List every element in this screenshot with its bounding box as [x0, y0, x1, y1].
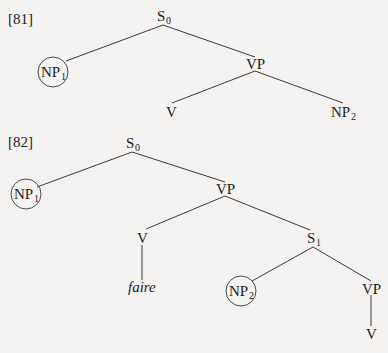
edge-s0-np1 — [37, 152, 132, 187]
node-vp: VP — [246, 56, 265, 72]
edge-vp-v — [146, 196, 225, 229]
edge-s0-np1 — [66, 25, 163, 61]
tree-81: [81] S 0 NP 1 VP V NP 2 — [8, 8, 356, 122]
svg-text:VP: VP — [246, 56, 265, 72]
syntax-tree-diagram: [81] S 0 NP 1 VP V NP 2 [ — [0, 0, 388, 353]
svg-text:V: V — [137, 230, 148, 246]
svg-text:VP: VP — [216, 181, 235, 197]
node-v: V — [166, 104, 177, 120]
svg-text:faire: faire — [128, 279, 156, 295]
edge-s1-np2 — [252, 247, 313, 281]
svg-text:NP: NP — [229, 283, 248, 299]
example-label-81: [81] — [8, 11, 33, 27]
edge-vp-s1 — [225, 196, 310, 230]
example-label-82: [82] — [8, 134, 33, 150]
svg-text:0: 0 — [135, 142, 140, 153]
svg-text:2: 2 — [351, 111, 356, 122]
node-np2: NP 2 — [331, 104, 356, 122]
svg-text:VP: VP — [362, 281, 381, 297]
node-s0: S 0 — [157, 8, 171, 26]
svg-text:S: S — [157, 8, 165, 24]
node-s0: S 0 — [126, 135, 140, 153]
svg-text:2: 2 — [249, 290, 254, 301]
svg-text:0: 0 — [166, 15, 171, 26]
node-np1-circled: NP 1 — [11, 179, 41, 209]
edge-s0-vp — [163, 25, 255, 57]
svg-text:S: S — [307, 230, 315, 246]
node-vp: VP — [216, 181, 235, 197]
edge-vp-np2 — [255, 71, 343, 103]
svg-text:1: 1 — [61, 71, 66, 82]
svg-text:NP: NP — [41, 64, 60, 80]
node-v: V — [137, 230, 148, 246]
node-vp2: VP — [362, 281, 381, 297]
edge-vp-v — [172, 71, 255, 103]
svg-text:NP: NP — [331, 104, 350, 120]
tree-82: [82] S 0 NP 1 VP V faire — [8, 134, 381, 342]
node-faire: faire — [128, 279, 156, 295]
edge-s1-vp — [313, 247, 371, 281]
svg-text:V: V — [366, 326, 377, 342]
svg-text:1: 1 — [316, 237, 321, 248]
svg-text:NP: NP — [14, 186, 33, 202]
node-np2-circled: NP 2 — [226, 276, 256, 306]
svg-text:V: V — [166, 104, 177, 120]
node-v2: V — [366, 326, 377, 342]
node-np1-circled: NP 1 — [38, 57, 68, 87]
node-s1: S 1 — [307, 230, 321, 248]
svg-text:1: 1 — [34, 193, 39, 204]
svg-text:S: S — [126, 135, 134, 151]
edge-s0-vp — [132, 152, 225, 182]
